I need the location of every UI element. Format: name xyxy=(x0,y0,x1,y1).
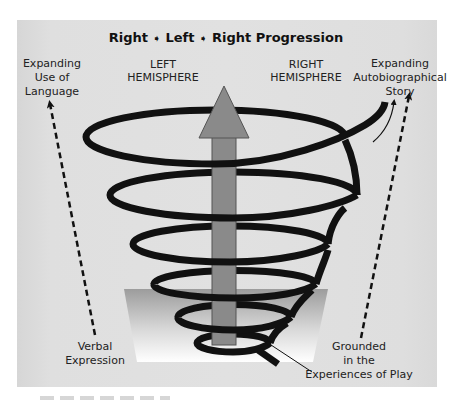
verbal-expression-label: Verbal Expression xyxy=(65,340,125,367)
svg-text:Story: Story xyxy=(385,85,415,98)
grounded-play-label: Grounded in the Experiences of Play xyxy=(305,340,413,381)
svg-text:Verbal: Verbal xyxy=(78,340,113,353)
title-arrow-icon: ➧ xyxy=(153,33,161,44)
right-hemisphere-label: RIGHT HEMISPHERE xyxy=(270,58,341,84)
svg-text:LEFT: LEFT xyxy=(150,58,176,71)
svg-text:HEMISPHERE: HEMISPHERE xyxy=(270,71,341,84)
svg-text:Expression: Expression xyxy=(65,354,125,367)
svg-text:Expanding: Expanding xyxy=(23,57,81,70)
diagram-stage: Right ➧ Left ➧ Right Progression LEFT HE… xyxy=(0,0,454,403)
svg-text:Experiences of Play: Experiences of Play xyxy=(305,368,413,381)
svg-text:in the: in the xyxy=(343,354,375,367)
title-arrow-icon: ➧ xyxy=(199,33,207,44)
spiral-diagram: Right ➧ Left ➧ Right Progression LEFT HE… xyxy=(0,0,454,403)
svg-text:RIGHT: RIGHT xyxy=(289,58,324,71)
svg-text:Use of: Use of xyxy=(35,71,71,84)
svg-text:Language: Language xyxy=(25,85,80,98)
svg-text:Grounded: Grounded xyxy=(332,340,386,353)
diagram-title: Right ➧ Left ➧ Right Progression xyxy=(109,30,343,45)
expanding-story-label: Expanding Autobiographical Story xyxy=(353,57,446,98)
svg-text:Autobiographical: Autobiographical xyxy=(353,71,446,84)
left-hemisphere-label: LEFT HEMISPHERE xyxy=(127,58,198,84)
expanding-language-label: Expanding Use of Language xyxy=(23,57,81,98)
cutoff-caption-fragment xyxy=(40,396,170,400)
svg-text:Expanding: Expanding xyxy=(371,57,429,70)
svg-text:HEMISPHERE: HEMISPHERE xyxy=(127,71,198,84)
right-dashed-arrow xyxy=(361,96,409,338)
